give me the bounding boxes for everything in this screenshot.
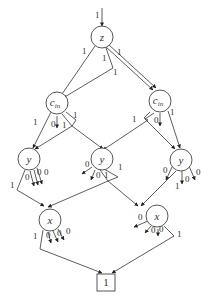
svg-text:1: 1 [73,110,78,120]
edges-y-mid: 0 0 1 1 [48,159,138,207]
node-y-mid: y [91,148,113,170]
svg-text:1: 1 [102,53,107,63]
svg-text:0: 0 [44,167,49,177]
edges-x-left: 1 0 0 0 [33,226,102,273]
svg-text:0: 0 [163,165,168,175]
svg-text:1: 1 [104,170,109,180]
svg-text:1: 1 [117,47,122,57]
node-y-right: y [170,149,192,171]
svg-text:0: 0 [196,167,201,177]
svg-text:0: 0 [185,174,190,184]
edges-y-left: 1 0 0 0 [10,167,49,206]
svg-text:1: 1 [62,120,67,130]
node-z: z [91,26,113,48]
svg-text:1: 1 [118,162,123,172]
svg-text:1: 1 [177,229,182,239]
svg-text:y: y [178,154,184,166]
edges-cin-left: 1 0 1 1 [33,110,103,149]
svg-text:0: 0 [25,172,30,182]
node-terminal: 1 [97,274,115,291]
svg-text:1: 1 [95,10,100,20]
svg-text:x: x [47,214,53,226]
node-x-right: x [146,205,168,227]
svg-text:1: 1 [175,181,180,191]
svg-text:0: 0 [96,170,101,180]
svg-text:0: 0 [154,115,159,125]
svg-text:1: 1 [33,117,38,127]
svg-text:1: 1 [33,231,38,241]
svg-text:1: 1 [10,180,15,190]
node-cin-left: cin [46,92,68,114]
entry-edge: 1 [95,8,102,26]
svg-text:1: 1 [82,46,87,56]
node-x-left: x [39,209,61,231]
edges-z-to-cin-right: 1 1 [102,44,156,90]
svg-text:1: 1 [113,67,118,77]
svg-text:0: 0 [138,212,143,222]
svg-text:1: 1 [170,107,175,117]
svg-text:0: 0 [46,230,51,240]
edges-cin-right: 1 1 0 [103,107,180,150]
svg-text:0: 0 [51,119,56,129]
edges-y-right: 0 0 0 1 [141,165,201,206]
svg-text:0: 0 [85,159,90,169]
svg-text:y: y [26,153,32,165]
svg-text:0: 0 [37,167,42,177]
svg-text:0: 0 [66,226,71,236]
svg-text:x: x [154,210,160,222]
svg-text:y: y [99,153,105,165]
edges-z-to-cin-left: 1 1 [60,46,118,98]
node-cin-right: cin [149,90,171,112]
edges-x-right: 0 0 0 1 [112,212,182,273]
svg-text:0: 0 [57,228,62,238]
svg-text:1: 1 [132,114,137,124]
decision-diagram: 1 1 1 1 1 1 0 1 1 1 1 0 [0,0,210,300]
node-y-left: y [18,148,40,170]
svg-text:z: z [99,31,105,43]
svg-text:1: 1 [103,276,109,288]
